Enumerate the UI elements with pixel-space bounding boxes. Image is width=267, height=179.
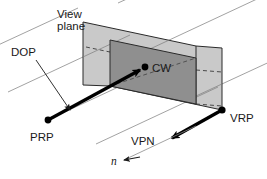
dop-label: DOP xyxy=(11,46,36,58)
dop-leader-line xyxy=(36,60,70,110)
prp-point xyxy=(45,117,52,124)
view-plane-label-line1: View xyxy=(57,8,82,20)
vrp-label: VRP xyxy=(230,112,254,124)
grid-line xyxy=(118,0,160,3)
cw-label: CW xyxy=(152,62,171,74)
viewing-geometry-figure: View plane DOP CW PRP VRP VPN n xyxy=(0,0,267,179)
view-plane-label-line2: plane xyxy=(57,20,85,32)
n-axis-label: n xyxy=(111,155,117,167)
diagram-canvas: View plane DOP CW PRP VRP VPN n xyxy=(0,0,267,179)
prp-label: PRP xyxy=(30,131,54,143)
vrp-point xyxy=(218,106,225,113)
cw-point xyxy=(142,64,149,71)
vpn-label: VPN xyxy=(131,135,155,147)
